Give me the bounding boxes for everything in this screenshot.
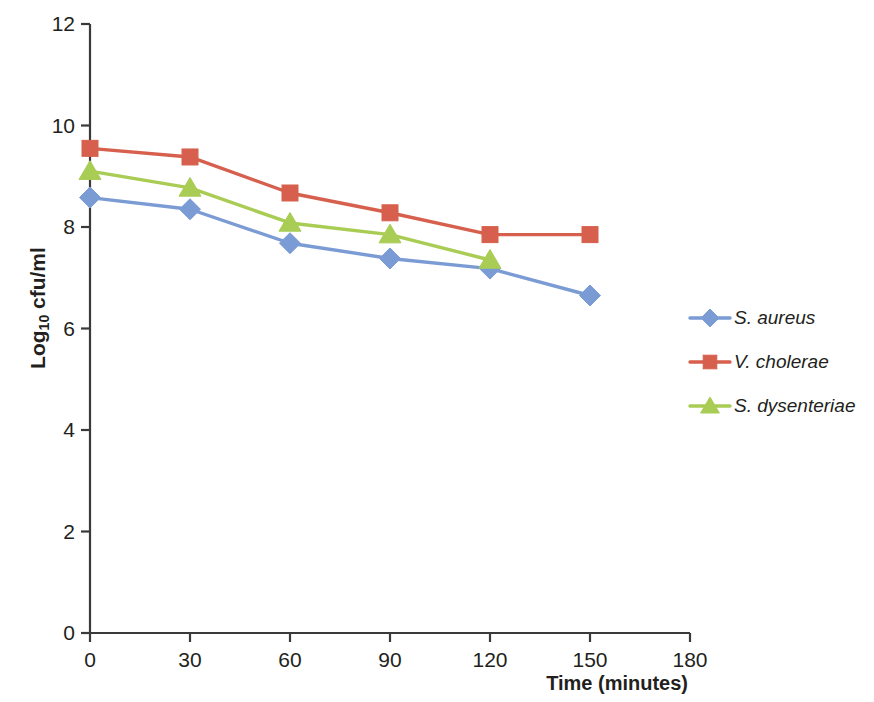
legend-marker-icon: [688, 350, 732, 374]
legend-label: V. cholerae: [734, 351, 829, 373]
data-point-marker: [182, 149, 198, 165]
data-point-marker: [482, 227, 498, 243]
legend-marker-icon: [688, 306, 732, 330]
series-line: [90, 148, 590, 234]
data-point-marker: [580, 285, 601, 306]
legend-item-2[interactable]: V. cholerae: [688, 340, 874, 384]
legend-marker-icon: [688, 394, 732, 418]
chart-legend: S. aureusV. choleraeS. dysenteriae: [688, 296, 874, 428]
data-point-marker: [80, 187, 101, 208]
data-point-marker: [79, 161, 101, 180]
data-point-marker: [382, 205, 398, 221]
chart-figure: Log10 cfu/ml Time (minutes) 024681012 03…: [0, 0, 874, 702]
legend-item-1[interactable]: S. aureus: [688, 296, 874, 340]
data-point-marker: [180, 199, 201, 220]
series-line: [90, 198, 590, 296]
data-point-marker: [82, 140, 98, 156]
legend-item-3[interactable]: S. dysenteriae: [688, 384, 874, 428]
legend-label: S. aureus: [734, 307, 815, 329]
data-point-marker: [582, 227, 598, 243]
legend-label: S. dysenteriae: [734, 395, 855, 417]
series-1: [80, 187, 601, 306]
data-point-marker: [280, 233, 301, 254]
data-point-marker: [380, 248, 401, 269]
data-point-marker: [282, 185, 298, 201]
